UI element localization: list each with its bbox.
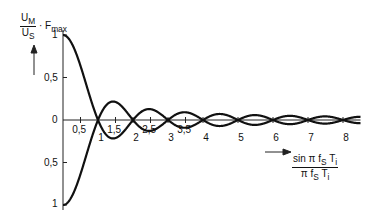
x-num-tail-sub: i xyxy=(335,157,337,167)
y-axis-label: UM US · Fmax xyxy=(20,12,67,41)
y-fraction: UM US xyxy=(20,12,36,41)
x-tick-label: 1 xyxy=(98,133,104,143)
x-axis-label: sin π fS Ti π fS Ti xyxy=(292,153,338,182)
x-tick-label: 1,5 xyxy=(107,125,121,135)
y-tick-label: 0,5 xyxy=(44,73,58,83)
x-tick-label: 6 xyxy=(273,133,279,143)
y-arrow-icon xyxy=(31,45,37,53)
x-num-tail: T xyxy=(327,153,336,164)
x-den-tail: T xyxy=(319,168,328,179)
y-tick-label: 1 xyxy=(52,30,58,40)
y-suffix: · F xyxy=(39,20,51,31)
axis-arrows xyxy=(31,45,291,155)
x-den: π f xyxy=(301,168,313,179)
y-tick-label: 0 xyxy=(52,115,58,125)
axes xyxy=(63,30,361,210)
y-den-sub: S xyxy=(29,31,35,41)
x-tick-label: 3,5 xyxy=(177,125,191,135)
upper-envelope-curve xyxy=(63,35,361,120)
x-arrow-icon xyxy=(283,149,291,155)
x-tick-label: 8 xyxy=(343,133,349,143)
x-den-tail-sub: i xyxy=(328,172,330,182)
y-den: U xyxy=(22,27,29,38)
y-tick-label: 0,5 xyxy=(44,158,58,168)
x-tick-label: 7 xyxy=(308,133,314,143)
y-tick-label: 1 xyxy=(52,199,58,209)
x-tick-label: 3 xyxy=(168,133,174,143)
x-num: sin π f xyxy=(293,153,321,164)
x-fraction: sin π fS Ti π fS Ti xyxy=(292,153,338,182)
x-tick-label: 0,5 xyxy=(72,125,86,135)
y-num-sub: M xyxy=(28,16,35,26)
x-tick-label: 2,5 xyxy=(142,125,156,135)
x-tick-label: 5 xyxy=(238,133,244,143)
x-tick-label: 4 xyxy=(203,133,209,143)
x-tick-label: 2 xyxy=(133,133,139,143)
